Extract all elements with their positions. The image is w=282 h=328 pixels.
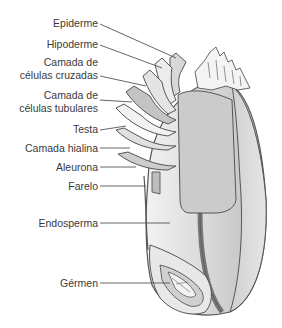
label-testa: Testa bbox=[73, 123, 98, 135]
label-camada-hialina: Camada hialina bbox=[25, 142, 98, 154]
label-germen: Gérmen bbox=[60, 277, 98, 289]
leader-tubulares bbox=[100, 100, 132, 102]
label-celulas-cruzadas-line2: células cruzadas bbox=[20, 69, 98, 81]
label-farelo: Farelo bbox=[68, 180, 98, 192]
leader-epiderme bbox=[100, 24, 176, 58]
label-celulas-cruzadas-line1: Camada de bbox=[44, 56, 98, 68]
label-column: Epiderme Hipoderme Camada de células cru… bbox=[0, 0, 98, 328]
label-aleurona: Aleurona bbox=[56, 161, 98, 173]
leader-hipoderme bbox=[100, 45, 162, 68]
label-endosperma: Endosperma bbox=[38, 217, 98, 229]
label-celulas-tubulares-line2: células tubulares bbox=[19, 102, 98, 114]
leader-cruzadas bbox=[100, 76, 146, 86]
label-epiderme: Epiderme bbox=[53, 17, 98, 29]
label-celulas-tubulares-line1: Camada de bbox=[44, 89, 98, 101]
brush-hairs bbox=[195, 47, 250, 90]
label-hipoderme: Hipoderme bbox=[47, 38, 98, 50]
